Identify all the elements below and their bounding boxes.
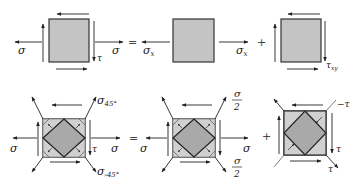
label-minus-tau: −τ <box>337 99 351 109</box>
bottom-element-combined: σ σ τ σ45° σ-45° <box>10 94 120 179</box>
label-sigma-left: σ <box>140 142 148 155</box>
bottom-element-shear: −τ τ τ <box>274 99 351 174</box>
label-sigma-right: σ <box>111 142 119 155</box>
label-sigma-45: σ45° <box>97 94 117 108</box>
label-sigma-right: σ <box>112 44 120 57</box>
svg-text:2: 2 <box>233 169 240 179</box>
equals-operator: = <box>129 132 138 145</box>
equals-operator: = <box>128 36 137 49</box>
label-tau: τ <box>97 53 103 63</box>
label-sigma-x-right: σx <box>236 44 248 58</box>
svg-text:σ: σ <box>234 88 242 99</box>
label-sigma-right: σ <box>243 142 251 155</box>
label-sigma-x-left: σx <box>143 44 155 58</box>
top-element-shear: τxy <box>275 14 338 72</box>
plus-operator: + <box>257 36 266 49</box>
plus-operator: + <box>262 130 271 143</box>
label-tau-diagonal: τ <box>328 164 334 174</box>
bottom-element-normal: σ σ σ 2 σ 2 <box>140 88 251 179</box>
svg-text:2: 2 <box>233 102 240 112</box>
label-sigma-half-top: σ 2 <box>232 88 242 112</box>
label-tau: τ <box>92 144 98 154</box>
label-tau: τ <box>336 144 342 154</box>
top-element-normal: σx σx <box>142 19 248 62</box>
label-sigma-left: σ <box>10 142 18 155</box>
label-tau-xy: τxy <box>326 60 338 72</box>
label-sigma-minus-45: σ-45° <box>97 165 119 179</box>
stress-diagram: σ σ τ = σx σx + τxy <box>0 0 356 186</box>
label-sigma-half-bottom: σ 2 <box>232 155 242 179</box>
top-element-combined: σ σ τ <box>15 14 123 69</box>
svg-text:σ: σ <box>234 155 242 166</box>
label-sigma-left: σ <box>18 44 26 57</box>
